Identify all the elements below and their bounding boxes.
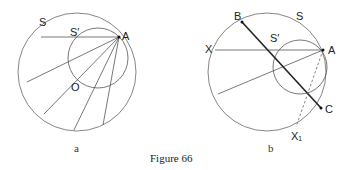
- label-B: B: [234, 10, 241, 22]
- label-A: A: [122, 30, 130, 42]
- label-S: S: [39, 16, 46, 28]
- point-C-dot: [320, 107, 323, 110]
- dashed-AX1: [296, 50, 323, 127]
- sublabel-b: b: [268, 142, 274, 154]
- sublabel-a: a: [74, 142, 79, 154]
- point-A-dot: [118, 36, 121, 39]
- point-A-dot: [322, 49, 325, 52]
- label-X1: X₁: [291, 130, 302, 142]
- label-S-prime: S′: [70, 26, 79, 38]
- chord-from-A: [218, 50, 323, 94]
- circle-S: [208, 13, 326, 131]
- figure-caption: Figure 66: [150, 152, 193, 164]
- label-S-prime: S′: [270, 32, 279, 44]
- label-A: A: [328, 44, 336, 56]
- label-O: O: [71, 81, 80, 93]
- panel-a: S S′ A O a: [18, 13, 136, 154]
- label-S: S: [296, 10, 303, 22]
- diameter-BC: [242, 22, 321, 108]
- panel-b: B S S′ X A C X₁ b: [205, 10, 336, 154]
- label-X: X: [205, 43, 213, 55]
- label-C: C: [325, 103, 333, 115]
- figure-66: S S′ A O a B S S′ X A C X₁ b Figure 66: [0, 0, 350, 170]
